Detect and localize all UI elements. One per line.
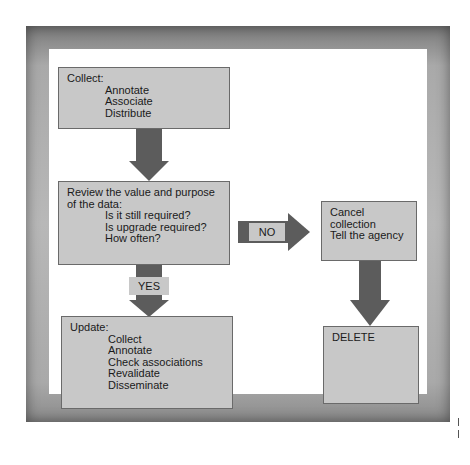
review-box: Review the value and purpose of the data… [58, 181, 230, 265]
review-question: Is it still required? [67, 210, 221, 222]
cancel-box: Cancel collection Tell the agency [321, 201, 417, 261]
review-title-line1: Review the value and purpose [67, 187, 221, 199]
review-question: How often? [67, 233, 221, 245]
arrow-down-cancel-to-delete [359, 261, 381, 301]
arrow-head-down-icon [350, 300, 390, 326]
update-box: Update: Collect Annotate Check associati… [61, 316, 233, 409]
collect-box: Collect: Annotate Associate Distribute [58, 67, 230, 129]
cancel-line: Cancel collection [330, 207, 408, 230]
update-item: Disseminate [70, 380, 224, 392]
update-title: Update: [70, 322, 224, 334]
delete-box: DELETE [323, 326, 419, 404]
collect-title: Collect: [67, 73, 221, 85]
yes-label: YES [129, 277, 169, 295]
update-item: Annotate [70, 345, 224, 357]
arrow-head-down-icon [129, 161, 169, 181]
collect-item: Associate [67, 96, 221, 108]
cancel-line: Tell the agency [330, 230, 408, 242]
arrow-head-right-icon [288, 213, 310, 251]
arrow-down-collect-to-review [136, 129, 162, 161]
edge-mark [458, 430, 459, 438]
collect-item: Distribute [67, 108, 221, 120]
arrow-head-down-icon [129, 300, 169, 317]
delete-label: DELETE [332, 332, 410, 344]
update-item: Revalidate [70, 368, 224, 380]
no-label: NO [249, 223, 285, 241]
edge-mark [458, 418, 459, 426]
